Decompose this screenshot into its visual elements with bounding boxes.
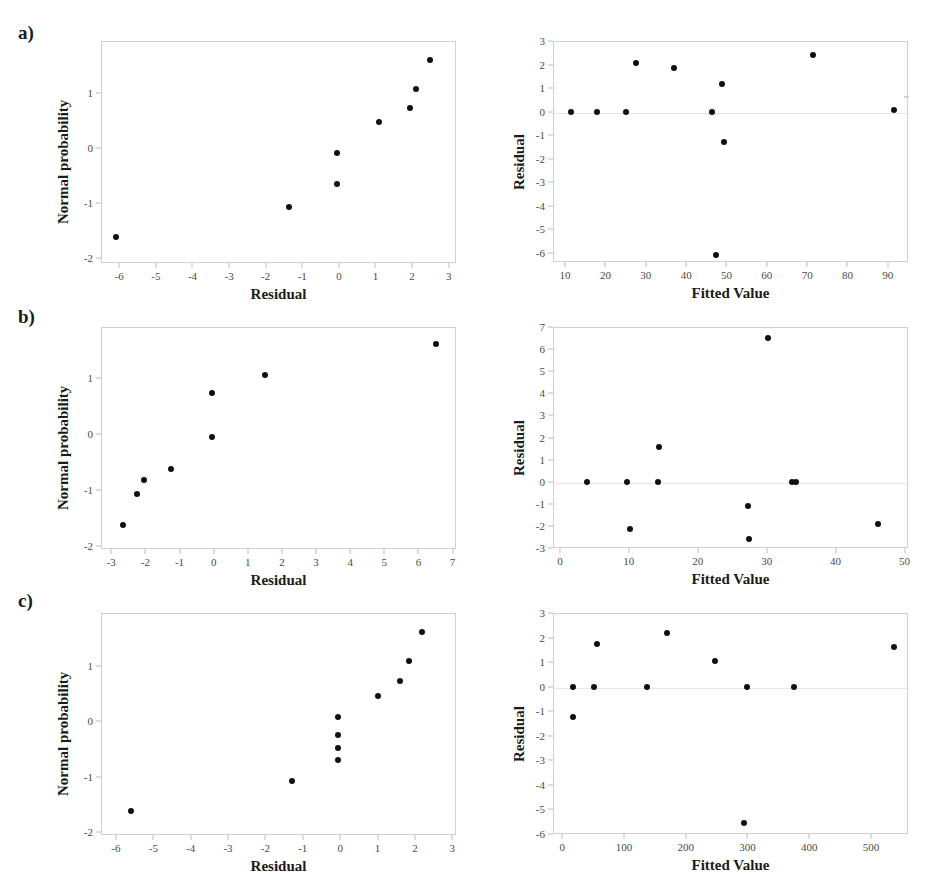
x-axis-tick-label: -6 [111, 842, 120, 854]
x-axis-tick-label: 2 [279, 556, 285, 568]
y-axis-title: Normal probability [55, 672, 72, 796]
y-axis-tick-label: 3 [523, 35, 545, 47]
data-point [746, 536, 752, 542]
x-axis-tick-label: 300 [739, 841, 756, 853]
y-axis-tick [548, 135, 553, 136]
zero-reference-line [554, 113, 907, 114]
x-axis-tick-label: 6 [416, 556, 422, 568]
x-axis-tick-label: -2 [261, 842, 270, 854]
data-point [427, 57, 433, 63]
x-axis-tick [452, 835, 453, 840]
x-axis-tick-label: 400 [801, 841, 818, 853]
x-axis-tick [847, 262, 848, 267]
x-axis-tick-label: 200 [677, 841, 694, 853]
y-axis-tick-label: -3 [523, 542, 545, 554]
chart-a-residual-vs-fitted: 1020304050607080903210-1-2-3-4-5-6Fitted… [470, 0, 940, 286]
data-point [168, 466, 174, 472]
plot-area [101, 613, 456, 835]
y-axis-tick [548, 393, 553, 394]
y-axis-tick-label: -2 [523, 520, 545, 532]
x-axis-tick [807, 262, 808, 267]
x-axis-tick [726, 262, 727, 267]
x-axis-tick-label: -3 [224, 270, 233, 282]
x-axis-tick [192, 263, 193, 268]
y-axis-tick [548, 503, 553, 504]
y-axis-tick-label: 2 [523, 59, 545, 71]
plot-area [553, 41, 908, 262]
x-axis-tick [628, 548, 629, 553]
y-axis-tick [548, 686, 553, 687]
y-axis-tick-label: -6 [523, 828, 545, 840]
x-axis-tick [418, 549, 419, 554]
x-axis-tick [559, 548, 560, 553]
data-point [113, 234, 119, 240]
data-point [791, 684, 797, 690]
y-axis-tick-label: -1 [523, 498, 545, 510]
data-point [419, 629, 425, 635]
data-point [745, 503, 751, 509]
plot-area [101, 41, 456, 263]
y-axis-tick [548, 349, 553, 350]
y-axis-tick-label: 1 [71, 660, 93, 672]
y-axis-tick-label: -2 [71, 252, 93, 264]
x-axis-tick-label: 0 [557, 555, 563, 567]
y-axis-tick-label: 1 [523, 82, 545, 94]
data-point [406, 658, 412, 664]
data-point [656, 444, 662, 450]
y-axis-tick [548, 252, 553, 253]
zero-reference-line [554, 688, 907, 689]
x-axis-tick [302, 835, 303, 840]
y-axis-tick [548, 637, 553, 638]
y-axis-tick [548, 88, 553, 89]
y-axis-tick [96, 377, 101, 378]
y-axis-tick [548, 809, 553, 810]
x-axis-tick-label: -2 [261, 270, 270, 282]
data-point [335, 745, 341, 751]
x-axis-tick [316, 549, 317, 554]
data-point [262, 372, 268, 378]
data-point [570, 714, 576, 720]
x-axis-tick-label: -3 [223, 842, 232, 854]
y-axis-tick-label: 5 [523, 365, 545, 377]
y-axis-tick-label: -2 [71, 540, 93, 552]
y-axis-tick [548, 784, 553, 785]
y-axis-tick-label: -5 [523, 223, 545, 235]
y-axis-tick [548, 371, 553, 372]
y-axis-tick-label: 1 [71, 87, 93, 99]
data-point [584, 479, 590, 485]
x-axis-tick [119, 263, 120, 268]
x-axis-tick-label: 1 [375, 842, 381, 854]
data-point [397, 678, 403, 684]
y-axis-tick-label: 4 [523, 387, 545, 399]
data-point [120, 522, 126, 528]
x-axis-tick-label: 90 [882, 269, 893, 281]
x-axis-tick-label: 50 [721, 269, 732, 281]
y-axis-tick [548, 327, 553, 328]
data-point [644, 684, 650, 690]
y-axis-tick-label: 7 [523, 321, 545, 333]
y-axis-tick [548, 205, 553, 206]
y-axis-tick [548, 662, 553, 663]
x-axis-tick [448, 263, 449, 268]
x-axis-tick-label: 30 [761, 555, 772, 567]
data-point [671, 65, 677, 71]
y-axis-title: Residual [511, 706, 528, 762]
x-axis-tick [179, 549, 180, 554]
chart-b-normal-probability: -3-2-10123456710-1-2ResidualNormal proba… [0, 286, 470, 572]
x-axis-tick-label: -5 [151, 270, 160, 282]
x-axis-tick-label: 20 [692, 555, 703, 567]
data-point [134, 491, 140, 497]
x-axis-tick [265, 835, 266, 840]
x-axis-tick [153, 835, 154, 840]
x-axis-tick [685, 834, 686, 839]
x-axis-tick [213, 549, 214, 554]
y-axis-tick-label: -1 [71, 484, 93, 496]
data-point [128, 808, 134, 814]
data-point [744, 684, 750, 690]
x-axis-tick-label: 50 [899, 555, 910, 567]
data-point [335, 714, 341, 720]
data-point [810, 52, 816, 58]
x-axis-tick-label: 1 [373, 270, 379, 282]
data-point [209, 434, 215, 440]
